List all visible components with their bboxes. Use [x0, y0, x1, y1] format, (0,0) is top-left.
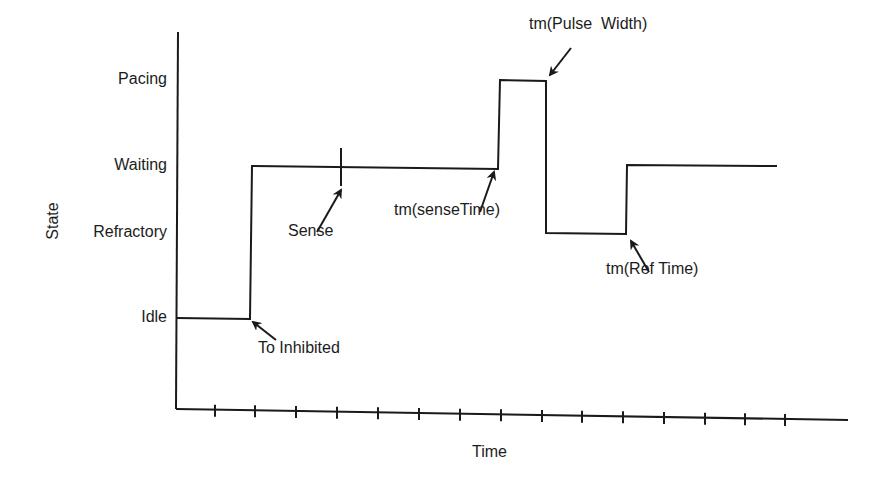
state-label-idle: Idle — [47, 309, 167, 325]
y-axis-line — [176, 32, 178, 409]
annotation-to-inhibited: To Inhibited — [258, 340, 340, 356]
state-waveform — [177, 80, 777, 319]
axes — [176, 32, 848, 420]
x-axis-line — [176, 409, 848, 420]
x-axis-title: Time — [472, 444, 507, 460]
waveform-line — [177, 80, 777, 319]
state-label-waiting: Waiting — [47, 157, 167, 173]
annotation-arrows — [253, 48, 649, 340]
arrow-icon — [550, 48, 571, 75]
state-label-refractory: Refractory — [47, 224, 167, 240]
annotation-ref-time: tm(Ref Time) — [606, 261, 698, 277]
state-label-pacing: Pacing — [47, 71, 167, 87]
annotation-sense: Sense — [288, 223, 333, 239]
time-axis-ticks — [215, 405, 785, 426]
annotation-pulse-width: tm(Pulse Width) — [529, 16, 647, 32]
arrow-icon — [253, 322, 276, 340]
annotation-sense-time: tm(senseTime) — [394, 202, 500, 218]
